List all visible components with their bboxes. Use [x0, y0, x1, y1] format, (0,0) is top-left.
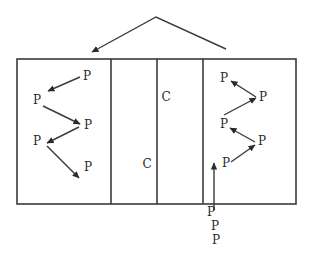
label-p-right-3: P — [220, 117, 228, 131]
court-rotation-diagram: PPPPPCCPPPPPPPP — [0, 0, 311, 262]
arrow-icon-right-a2 — [224, 98, 256, 115]
position-labels: PPPPPCCPPPPPPPP — [33, 69, 267, 247]
label-p-left-2: P — [33, 93, 41, 107]
label-p-right-2: P — [259, 90, 267, 104]
movement-arrows — [43, 77, 256, 210]
court — [17, 59, 296, 204]
label-p-right-5: P — [222, 156, 230, 170]
arrow-icon-left-a3 — [47, 127, 79, 143]
label-p-queue-1: P — [207, 205, 215, 219]
label-c-upper: C — [161, 90, 170, 104]
label-c-lower: C — [142, 157, 151, 171]
label-p-left-1: P — [83, 69, 91, 83]
label-p-right-1: P — [220, 71, 228, 85]
arrow-icon-right-a3 — [230, 128, 255, 142]
arrow-icon-left-a1 — [48, 77, 80, 91]
label-p-left-4: P — [33, 134, 41, 148]
label-p-left-3: P — [84, 118, 92, 132]
label-p-right-4: P — [258, 134, 266, 148]
court-dividers — [111, 59, 203, 204]
rotation-arrow-icon — [92, 17, 226, 52]
arrow-icon-right-a1 — [231, 81, 256, 97]
arrow-icon-left-a4 — [47, 146, 79, 178]
label-p-left-5: P — [84, 160, 92, 174]
arrow-icon-right-a4 — [231, 145, 255, 162]
label-p-queue-3: P — [212, 233, 220, 247]
arrow-icon-left-a2 — [43, 106, 80, 124]
label-p-queue-2: P — [211, 219, 219, 233]
